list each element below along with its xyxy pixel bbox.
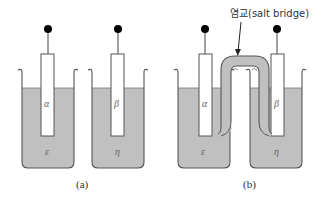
terminal-icon (44, 25, 52, 33)
salt-bridge-label: 염교(salt bridge) (230, 8, 309, 19)
caption-a: (a) (76, 178, 89, 191)
electrode-b-right (271, 25, 284, 136)
salt-bridge-annotation: 염교(salt bridge) (230, 8, 309, 56)
terminal-icon (114, 25, 122, 33)
electrode-label-alpha: α (44, 98, 50, 109)
solution-label-epsilon: ε (201, 146, 205, 157)
solution-label-eta: η (274, 146, 279, 157)
terminal-icon (273, 25, 281, 33)
panel-b: α ε β η 염교 (174, 8, 309, 191)
panel-a: α ε β η (a) (18, 25, 148, 191)
salt-bridge (218, 56, 272, 136)
electrode-a-right (111, 25, 124, 136)
solution-label-eta: η (115, 146, 120, 157)
electrode-b-left (199, 25, 212, 136)
electrode-label-alpha: α (202, 98, 208, 109)
pointer-arrow-icon (238, 22, 241, 52)
electrode-a-left (41, 25, 54, 136)
electrode-label-beta: β (113, 98, 119, 109)
caption-b: (b) (243, 178, 256, 191)
electrochemical-cells-diagram: α ε β η (a) α ε (0, 0, 322, 205)
electrode-label-beta: β (273, 98, 279, 109)
solution-label-epsilon: ε (45, 146, 49, 157)
terminal-icon (201, 25, 209, 33)
